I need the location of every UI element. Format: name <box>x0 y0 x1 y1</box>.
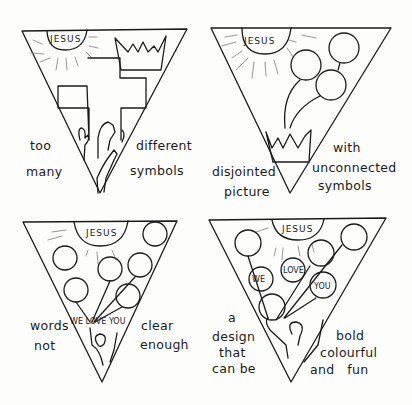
caption-right-line2: unconnected <box>312 160 397 175</box>
caption-left-line1: words <box>30 318 69 333</box>
sketch-sheet: JESUS too many different symbols JESUS w… <box>0 0 412 405</box>
caption-left-line2: not <box>34 338 55 353</box>
sun-label: JESUS <box>243 36 275 46</box>
figure-icon <box>266 318 323 362</box>
inline-message: WE LOVE YOU <box>70 317 126 326</box>
sun-icon: JESUS <box>48 221 128 264</box>
sun-label: JESUS <box>49 34 81 44</box>
caption-right-line2: colourful <box>320 345 377 360</box>
caption-left-line3: that <box>219 345 246 360</box>
panel-bold-colourful-fun: JESUS WE LOVE YOU a design that can be b… <box>209 218 386 382</box>
caption-left-line4: can be <box>212 361 256 376</box>
crown-icon <box>115 36 166 70</box>
balloons-icon: WE LOVE YOU <box>235 224 367 320</box>
sketch-canvas: JESUS too many different symbols JESUS w… <box>0 0 412 405</box>
sun-icon: JESUS <box>256 219 324 260</box>
panel-too-many-symbols: JESUS too many different symbols <box>22 29 192 193</box>
hands-icon <box>79 122 124 193</box>
caption-left-line2: many <box>26 164 63 179</box>
sun-label: JESUS <box>281 224 313 234</box>
caption-right-line1: bold <box>336 328 364 343</box>
panel-disjointed-picture: JESUS with unconnected symbols disjointe… <box>211 28 397 199</box>
caption-left-line2: picture <box>224 184 270 199</box>
balloon-word-you: YOU <box>313 282 331 291</box>
sun-icon: JESUS <box>31 30 98 70</box>
caption-left-line2: design <box>212 329 255 344</box>
balloon-word-love: LOVE <box>283 266 304 275</box>
caption-left-line1: disjointed <box>212 164 276 179</box>
caption-left-line1: too <box>30 138 51 153</box>
caption-left-line1: a <box>228 310 236 325</box>
caption-right-line3: symbols <box>318 178 372 193</box>
caption-right-line2: enough <box>140 337 189 352</box>
caption-right-line1: with <box>333 140 361 155</box>
sun-label: JESUS <box>85 228 117 238</box>
panel-words-not-clear: JESUS WE LOVE YOU words not clear enough <box>23 221 189 382</box>
balloons-icon <box>285 33 359 128</box>
caption-right-line3: and fun <box>310 362 368 377</box>
caption-right-line1: clear <box>141 318 174 333</box>
triangle-outline <box>23 221 177 382</box>
caption-right-line1: different <box>136 138 192 153</box>
sun-icon: JESUS <box>222 28 316 78</box>
caption-right-line2: symbols <box>130 163 184 178</box>
